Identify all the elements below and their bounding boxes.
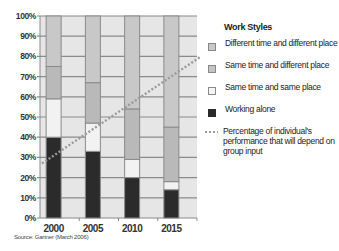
y-tick-label: 60% bbox=[20, 92, 37, 102]
bar-segment bbox=[46, 137, 61, 218]
bar-segment bbox=[125, 109, 140, 160]
y-tick-label: 40% bbox=[20, 132, 37, 142]
x-tick-label: 2015 bbox=[161, 223, 182, 234]
bar-segment bbox=[85, 83, 100, 123]
bar-segment bbox=[85, 16, 100, 83]
y-tick-label: 30% bbox=[20, 152, 37, 162]
y-axis: 0%10%20%30%40%50%60%70%80%90%100% bbox=[16, 11, 37, 223]
swatch-icon bbox=[208, 65, 216, 73]
swatch-icon bbox=[208, 43, 216, 51]
y-tick-label: 100% bbox=[16, 11, 37, 21]
bar-segment bbox=[125, 178, 140, 218]
y-tick-label: 50% bbox=[20, 112, 37, 122]
bar-segment bbox=[85, 151, 100, 218]
legend-item-group-input-line: Percentage of individual's performance t… bbox=[204, 126, 339, 156]
legend-item-same-time-different-place: Same time and different place bbox=[204, 60, 339, 73]
x-tick-label: 2000 bbox=[44, 223, 65, 234]
bar-segment bbox=[46, 99, 61, 137]
legend: Work Styles Different time and different… bbox=[204, 22, 339, 165]
bar-segment bbox=[46, 67, 61, 99]
bar-segment bbox=[164, 190, 179, 218]
y-tick-label: 80% bbox=[20, 51, 37, 61]
legend-title: Work Styles bbox=[224, 22, 339, 32]
swatch-icon bbox=[208, 87, 216, 95]
bar-segment bbox=[164, 16, 179, 127]
legend-item-same-time-same-place: Same time and same place bbox=[204, 82, 339, 95]
y-tick-label: 20% bbox=[20, 173, 37, 183]
x-axis: 2000200520102015 bbox=[44, 218, 198, 234]
y-tick-label: 70% bbox=[20, 72, 37, 82]
x-tick-label: 2010 bbox=[122, 223, 143, 234]
y-tick-label: 10% bbox=[20, 193, 37, 203]
chart-source: Source: Gartner (March 2006) bbox=[14, 234, 88, 240]
y-tick-label: 90% bbox=[20, 31, 37, 41]
bar-segment bbox=[85, 123, 100, 151]
swatch-icon bbox=[208, 109, 216, 117]
bar-segment bbox=[125, 16, 140, 109]
bar-segment bbox=[46, 16, 61, 67]
y-tick-label: 0% bbox=[25, 213, 37, 223]
x-tick-label: 2005 bbox=[83, 223, 104, 234]
legend-item-working-alone: Working alone bbox=[204, 104, 339, 117]
bar-segment bbox=[164, 182, 179, 190]
dotted-line-icon bbox=[204, 131, 218, 133]
bar-segment bbox=[125, 159, 140, 177]
legend-item-different-time-different-place: Different time and different place bbox=[204, 38, 339, 51]
bar-segment bbox=[164, 127, 179, 182]
